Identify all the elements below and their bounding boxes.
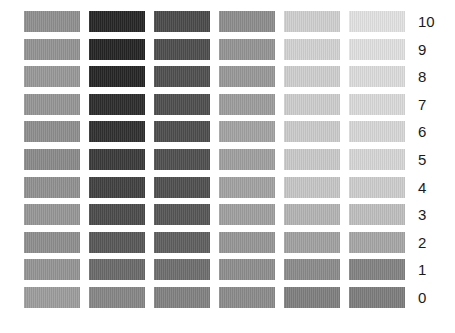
gray-patch [154, 287, 210, 308]
patch-row: 5 [0, 149, 455, 170]
gray-patch [284, 177, 340, 198]
gray-patch [284, 11, 340, 32]
gray-patch [349, 149, 405, 170]
gray-patch [24, 121, 80, 142]
row-label: 7 [418, 94, 452, 115]
row-label: 4 [418, 177, 452, 198]
gray-patch [24, 287, 80, 308]
gray-patch [154, 121, 210, 142]
gray-patch [349, 66, 405, 87]
gray-patch [154, 177, 210, 198]
gray-patch [284, 149, 340, 170]
patch-row: 4 [0, 177, 455, 198]
gray-patch [24, 232, 80, 253]
gray-patch [349, 177, 405, 198]
gray-patch [24, 39, 80, 60]
gray-patch [349, 259, 405, 280]
row-label: 5 [418, 149, 452, 170]
gray-patch [219, 121, 275, 142]
gray-patch [284, 259, 340, 280]
gray-patch [89, 287, 145, 308]
gray-patch [349, 39, 405, 60]
gray-patch [284, 287, 340, 308]
patch-row: 6 [0, 121, 455, 142]
gray-patch [154, 204, 210, 225]
gray-patch [349, 121, 405, 142]
gray-patch [349, 94, 405, 115]
row-label: 9 [418, 39, 452, 60]
gray-patch [219, 287, 275, 308]
gray-patch [154, 66, 210, 87]
gray-patch [89, 204, 145, 225]
row-label: 0 [418, 287, 452, 308]
gray-patch [89, 149, 145, 170]
gray-patch [349, 232, 405, 253]
gray-patch [219, 149, 275, 170]
gray-patch [89, 121, 145, 142]
patch-row: 8 [0, 66, 455, 87]
gray-patch [154, 39, 210, 60]
gray-patch [219, 66, 275, 87]
grayscale-patch-chart: 109876543210 [0, 0, 455, 333]
gray-patch [154, 149, 210, 170]
gray-patch [284, 94, 340, 115]
gray-patch [219, 232, 275, 253]
row-label: 6 [418, 121, 452, 142]
gray-patch [284, 204, 340, 225]
gray-patch [24, 149, 80, 170]
gray-patch [24, 66, 80, 87]
gray-patch [154, 11, 210, 32]
gray-patch [349, 204, 405, 225]
gray-patch [24, 177, 80, 198]
gray-patch [284, 121, 340, 142]
gray-patch [284, 66, 340, 87]
gray-patch [219, 204, 275, 225]
gray-patch [154, 232, 210, 253]
gray-patch [219, 259, 275, 280]
gray-patch [284, 39, 340, 60]
gray-patch [89, 94, 145, 115]
row-label: 2 [418, 232, 452, 253]
gray-patch [89, 177, 145, 198]
gray-patch [219, 94, 275, 115]
gray-patch [89, 39, 145, 60]
gray-patch [154, 94, 210, 115]
patch-row: 1 [0, 259, 455, 280]
patch-row: 10 [0, 11, 455, 32]
gray-patch [24, 11, 80, 32]
gray-patch [89, 232, 145, 253]
gray-patch [219, 11, 275, 32]
gray-patch [89, 259, 145, 280]
gray-patch [24, 204, 80, 225]
patch-row: 9 [0, 39, 455, 60]
row-label: 1 [418, 259, 452, 280]
gray-patch [219, 39, 275, 60]
gray-patch [24, 94, 80, 115]
gray-patch [349, 287, 405, 308]
gray-patch [349, 11, 405, 32]
row-label: 10 [418, 11, 452, 32]
patch-row: 2 [0, 232, 455, 253]
row-label: 3 [418, 204, 452, 225]
patch-row: 0 [0, 287, 455, 308]
row-label: 8 [418, 66, 452, 87]
gray-patch [89, 66, 145, 87]
gray-patch [284, 232, 340, 253]
gray-patch [89, 11, 145, 32]
gray-patch [219, 177, 275, 198]
patch-row: 3 [0, 204, 455, 225]
gray-patch [154, 259, 210, 280]
patch-row: 7 [0, 94, 455, 115]
gray-patch [24, 259, 80, 280]
